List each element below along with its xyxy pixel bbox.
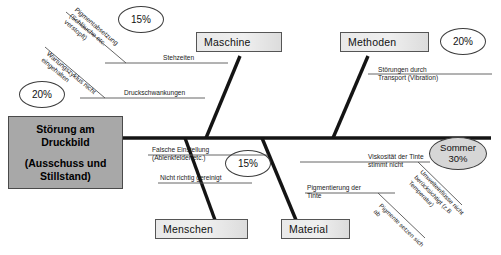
cause-label-pigmentierung: Pigmentierung der Tinte [307,184,361,200]
cause-label-transport: Störungen durch Transport (Vibration) [378,66,438,82]
percent-value: 30% [448,154,467,165]
percent-value: 15% [238,158,258,169]
percent-season-label: Sommer [440,143,476,154]
cause-label-stehzeiten: Stehzeiten [163,54,194,62]
problem-statement-box: Störung am Druckbild (Ausschuss und Stil… [8,116,123,189]
percent-oval-methoden: 20% [440,28,486,55]
cause-line-2: stimmt nicht [368,161,424,169]
cause-line-2: (Ablenkfelder etc.) [152,154,209,162]
cause-line-1: Falsche Einstellung [152,146,209,154]
cause-line-2: Tinte [307,192,361,200]
cause-line-2: Transport (Vibration) [378,74,438,82]
percent-oval-material: Sommer 30% [429,137,487,170]
category-label-material: Material [289,224,328,235]
percent-value: 20% [32,89,52,100]
cause-label-nicht-gereinigt: Nicht richtig gereinigt [160,174,222,182]
cause-label-viskositaet: Viskosität der Tinte stimmt nicht [368,153,424,169]
cause-line-1: Störungen durch [378,66,438,74]
cause-label-druckschwankungen: Druckschwankungen [124,89,185,97]
category-label-maschine: Maschine [204,37,251,48]
category-label-methoden: Methoden [348,37,396,48]
problem-line-3: (Ausschuss und [25,157,107,170]
problem-line-4: Stillstand) [40,170,91,183]
percent-value: 15% [131,14,151,25]
cause-label-falsche-einstellung: Falsche Einstellung (Ablenkfelder etc.) [152,146,209,162]
category-label-menschen: Menschen [163,224,213,235]
problem-line-2: Druckbild [41,136,89,149]
percent-oval-menschen: 15% [225,150,271,177]
bone-material [262,138,296,220]
cause-line-1: Pigmentierung der [307,184,361,192]
problem-line-1: Störung am [36,123,94,136]
fishbone-diagram: Störung am Druckbild (Ausschuss und Stil… [0,0,501,255]
category-box-material: Material [281,219,350,239]
category-box-methoden: Methoden [340,32,429,52]
category-box-menschen: Menschen [155,219,248,239]
bone-maschine [206,56,240,138]
category-box-maschine: Maschine [196,32,282,52]
percent-oval-maschine-top: 15% [118,6,164,33]
percent-oval-maschine-left: 20% [19,81,65,108]
percent-value: 20% [453,36,473,47]
bone-methoden [333,56,368,138]
cause-line-1: Viskosität der Tinte [368,153,424,161]
